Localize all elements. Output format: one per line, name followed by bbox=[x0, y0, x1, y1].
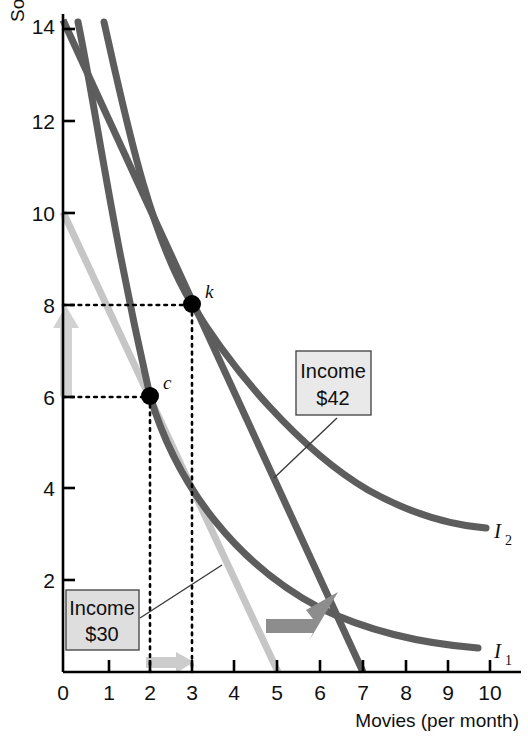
callout-income-30-line1: Income bbox=[69, 597, 135, 619]
y-tick-label-2: 2 bbox=[43, 569, 55, 592]
indifference-curve-chart: 2 4 6 8 10 12 14 0 1 2 3 4 5 6 7 8 9 10 … bbox=[0, 0, 528, 752]
callout-income-42-line1: Income bbox=[300, 360, 366, 382]
y-axis-title: Soda (six-packs per month) bbox=[7, 0, 28, 22]
callout-income-30-line2: $30 bbox=[85, 623, 118, 645]
x-tick-label-2: 2 bbox=[144, 681, 156, 704]
point-c-marker bbox=[141, 387, 159, 405]
y-tick-label-14: 14 bbox=[32, 15, 56, 38]
y-tick-label-8: 8 bbox=[43, 294, 55, 317]
curve-label-I1-base: I bbox=[493, 639, 502, 663]
x-tick-label-6: 6 bbox=[314, 681, 326, 704]
y-tick-label-6: 6 bbox=[43, 386, 55, 409]
x-tick-label-9: 9 bbox=[442, 681, 454, 704]
curve-label-I1-sub: 1 bbox=[505, 653, 512, 668]
y-tick-label-12: 12 bbox=[32, 110, 55, 133]
x-tick-label-3: 3 bbox=[186, 681, 198, 704]
x-tick-label-7: 7 bbox=[357, 681, 369, 704]
x-tick-label-4: 4 bbox=[228, 681, 240, 704]
curve-label-I2-sub: 2 bbox=[505, 533, 512, 548]
x-tick-label-0: 0 bbox=[57, 681, 69, 704]
x-tick-label-8: 8 bbox=[400, 681, 412, 704]
x-tick-label-10: 10 bbox=[478, 681, 501, 704]
curve-label-I2-base: I bbox=[493, 519, 502, 543]
y-tick-label-4: 4 bbox=[43, 477, 55, 500]
point-k-marker bbox=[183, 295, 201, 313]
x-tick-label-5: 5 bbox=[271, 681, 283, 704]
y-tick-label-10: 10 bbox=[32, 202, 55, 225]
x-axis-title: Movies (per month) bbox=[355, 710, 519, 731]
callout-income-42-line2: $42 bbox=[316, 387, 349, 409]
x-tick-label-1: 1 bbox=[103, 681, 115, 704]
point-c-label: c bbox=[163, 372, 172, 393]
point-k-label: k bbox=[205, 281, 214, 302]
